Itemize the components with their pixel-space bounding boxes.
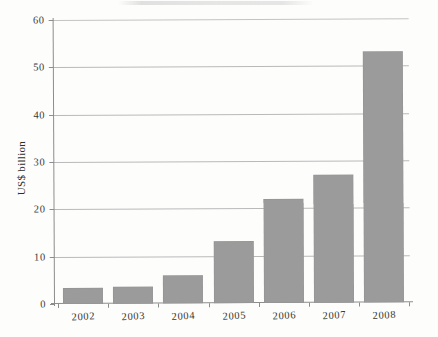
x-axis-tick [359, 303, 360, 307]
page-scan-bleed [118, 1, 314, 5]
y-axis-tick [49, 162, 54, 163]
y-axis-tick [49, 67, 54, 68]
y-axis-tick [50, 304, 55, 305]
bar-2002 [63, 288, 103, 304]
y-axis-tick-label: 0 [40, 299, 46, 310]
x-axis-label-2006: 2006 [272, 309, 296, 321]
y-axis-tick-label: 50 [33, 62, 45, 73]
y-axis-tick [49, 20, 54, 21]
x-axis-tick [158, 303, 159, 307]
y-axis-tick [49, 115, 54, 116]
x-axis-tick [58, 304, 59, 308]
bar-2008 [363, 51, 404, 302]
y-axis-tick [50, 209, 55, 210]
x-axis-label-2003: 2003 [121, 310, 145, 322]
x-axis-tick [208, 303, 209, 307]
x-axis-label-2004: 2004 [172, 310, 196, 322]
gridline [54, 113, 409, 116]
y-axis-title: US$ billion [14, 120, 28, 216]
bar-2006 [263, 199, 304, 303]
bar-2003 [113, 286, 153, 303]
y-axis-tick-label: 40 [33, 109, 45, 120]
bar-2005 [213, 241, 253, 303]
bar-chart-figure: US$ billion 0102030405060200220032004200… [0, 0, 438, 337]
x-axis-tick [309, 303, 310, 307]
x-axis-label-2002: 2002 [71, 310, 95, 322]
x-axis-label-2005: 2005 [222, 309, 246, 321]
y-axis-tick-label: 60 [33, 15, 45, 26]
gridline [54, 160, 409, 163]
x-axis-label-2007: 2007 [322, 309, 346, 321]
gridline [54, 66, 409, 69]
x-axis-tick [409, 302, 410, 306]
y-axis-tick [50, 257, 55, 258]
x-axis-tick [259, 303, 260, 307]
gridline [55, 208, 410, 211]
y-axis-tick-label: 20 [34, 204, 46, 215]
y-axis-title-text: US$ billion [15, 141, 27, 195]
bar-2007 [313, 175, 354, 303]
plot-area: 0102030405060200220032004200520062007200… [54, 18, 410, 304]
x-axis-label-2008: 2008 [372, 309, 396, 321]
y-axis-tick-label: 10 [34, 251, 46, 262]
y-axis-tick-label: 30 [34, 157, 46, 168]
bar-2004 [163, 275, 203, 304]
gridline [54, 18, 409, 21]
x-axis-tick [108, 304, 109, 308]
